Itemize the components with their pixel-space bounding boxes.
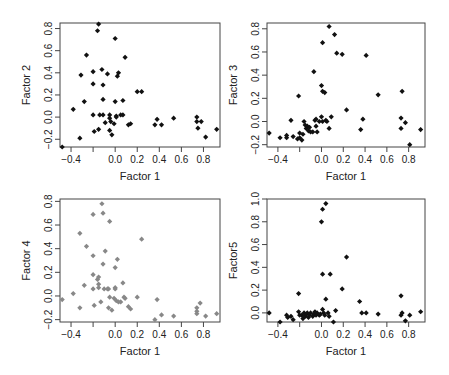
x-tick-label: 0.8 [196, 154, 210, 165]
data-point [115, 257, 120, 262]
data-point [327, 24, 332, 29]
data-point [329, 114, 334, 119]
data-point [171, 116, 176, 121]
data-point [328, 272, 333, 277]
x-tick-label: 0.8 [196, 329, 210, 340]
data-point [332, 32, 337, 37]
x-tick-label: 0.0 [315, 154, 329, 165]
data-point [358, 127, 363, 132]
y-tick-label: 0.6 [43, 43, 54, 57]
x-tick-label: −0.4 [268, 154, 288, 165]
data-point [100, 261, 105, 266]
x-tick-label: 0.4 [152, 329, 166, 340]
x-tick-label: 0.6 [380, 329, 394, 340]
data-point [120, 98, 125, 103]
y-tick-label: 0.8 [43, 194, 54, 208]
y-tick-label: −0.2 [250, 134, 261, 154]
data-point [155, 297, 160, 302]
data-point [107, 219, 112, 224]
data-point [113, 265, 118, 270]
data-point [84, 244, 89, 249]
data-point [155, 117, 160, 122]
x-tick-label: 0.0 [315, 329, 329, 340]
data-point [319, 219, 324, 224]
y-tick-label: 0.0 [43, 110, 54, 124]
data-point [344, 254, 349, 259]
x-tick-label: 0.2 [336, 154, 350, 165]
data-point [91, 212, 96, 217]
data-point [313, 124, 318, 129]
data-point [95, 28, 100, 33]
data-point [203, 313, 208, 318]
data-point [77, 136, 82, 141]
data-point [360, 117, 365, 122]
data-point [78, 72, 83, 77]
data-point [199, 119, 204, 124]
x-axis-label: Factor 1 [120, 345, 160, 357]
data-point [400, 89, 405, 94]
data-point [98, 299, 103, 304]
y-tick-label: 0.2 [43, 265, 54, 279]
data-point [344, 107, 349, 112]
x-tick-label: 0.4 [358, 329, 372, 340]
y-tick-label: 0.2 [250, 283, 261, 297]
x-tick-label: 0.0 [108, 154, 122, 165]
data-point [198, 300, 203, 305]
data-point [340, 286, 345, 291]
data-point [152, 122, 157, 127]
data-point [171, 313, 176, 318]
y-tick-label: 0.4 [43, 241, 54, 255]
data-point [418, 127, 423, 132]
data-point [320, 40, 325, 45]
data-point [71, 107, 76, 112]
data-point [291, 134, 296, 139]
y-tick-label: 0.8 [43, 21, 54, 35]
data-point [311, 69, 316, 74]
data-point [91, 81, 96, 86]
y-axis-label: Factor 3 [227, 65, 239, 105]
data-point [103, 248, 108, 253]
data-point [91, 112, 96, 117]
data-point [71, 291, 76, 296]
data-point [320, 272, 325, 277]
x-axis-label: Factor 1 [120, 170, 160, 182]
data-point [277, 135, 282, 140]
x-tick-label: −0.4 [61, 329, 81, 340]
data-point [398, 293, 403, 298]
y-tick-label: 0.2 [43, 88, 54, 102]
data-point [92, 303, 97, 308]
scatter-panel-4: −0.40.00.20.40.60.80.00.20.40.60.81.0Fac… [227, 192, 425, 357]
data-point [364, 310, 369, 315]
data-point [195, 126, 200, 131]
x-tick-label: 0.8 [402, 329, 416, 340]
x-axis-label: Factor 1 [326, 170, 366, 182]
y-tick-label: 0.8 [250, 21, 261, 35]
data-point [152, 317, 157, 322]
data-point [327, 126, 332, 131]
data-point [77, 231, 82, 236]
data-point [91, 253, 96, 258]
data-point [159, 122, 164, 127]
data-point [194, 115, 199, 120]
data-point [109, 132, 114, 137]
data-point [214, 127, 219, 132]
data-point [113, 36, 118, 41]
data-point [91, 272, 96, 277]
data-point [92, 129, 97, 134]
y-axis-label: Factor 2 [20, 65, 32, 105]
data-point [123, 55, 128, 60]
scatter-matrix-figure: −0.40.00.20.40.60.8−0.20.00.20.40.60.8Fa… [0, 0, 449, 375]
y-tick-label: 0.2 [250, 91, 261, 105]
data-point [364, 53, 369, 58]
y-tick-label: 0.6 [250, 237, 261, 251]
data-point [84, 53, 89, 58]
plot-frame [60, 199, 220, 322]
data-point [320, 207, 325, 212]
data-point [103, 120, 108, 125]
data-point [96, 22, 101, 27]
data-point [214, 311, 219, 316]
data-point [296, 291, 301, 296]
data-point [323, 297, 328, 302]
data-point [334, 51, 339, 56]
y-tick-label: 0.0 [250, 114, 261, 128]
